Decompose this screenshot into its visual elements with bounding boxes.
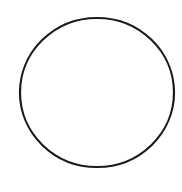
circle-shape <box>20 18 174 167</box>
diagram-svg <box>0 0 182 192</box>
diagram-canvas <box>0 0 182 192</box>
